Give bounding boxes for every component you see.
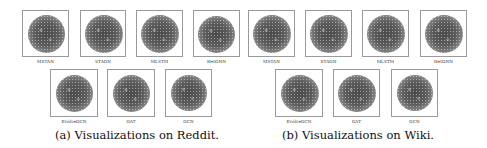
embedding-scatter-icon (113, 75, 150, 112)
panel-label: EvolveGCN (275, 119, 323, 124)
panel-label: GAT (333, 119, 380, 124)
embedding-scatter-icon (338, 75, 376, 112)
embedding-scatter-icon (141, 15, 179, 53)
embedding-scatter-icon (367, 15, 405, 53)
embedding-scatter-icon (198, 16, 235, 53)
panel-reddit-mstan (22, 10, 69, 57)
panel-label: EvolveGCN (50, 119, 98, 124)
caption-wiki: (b) Visualizations on Wiki. (282, 128, 434, 142)
panel-reddit-stagn (80, 10, 126, 57)
panel-label: MSTAN (248, 59, 295, 64)
panel-reddit-mlstm (136, 10, 183, 57)
panel-wiki-evolvegcn (275, 69, 323, 117)
embedding-scatter-icon (397, 75, 433, 111)
panel-label: MLSTM (136, 59, 183, 64)
panel-label: MSTAN (22, 59, 69, 64)
panel-label: HetGNN (420, 59, 467, 64)
panel-wiki-mlstm (362, 10, 409, 57)
embedding-scatter-icon (28, 15, 65, 53)
panel-wiki-mstan (248, 10, 295, 57)
panel-wiki-stagn (305, 10, 352, 57)
caption-reddit: (a) Visualizations on Reddit. (55, 128, 219, 142)
embedding-scatter-icon (281, 75, 319, 112)
panel-label: GCN (165, 119, 212, 124)
embedding-scatter-icon (56, 75, 93, 112)
embedding-scatter-icon (171, 75, 207, 111)
panel-wiki-hetgnn (420, 10, 467, 57)
panel-wiki-gcn (391, 69, 438, 117)
panel-reddit-hetgnn (193, 10, 240, 57)
embedding-scatter-icon (85, 15, 123, 53)
embedding-scatter-icon (425, 15, 463, 53)
embedding-scatter-icon (253, 15, 291, 53)
embedding-scatter-icon (310, 15, 348, 53)
panel-reddit-gcn (165, 69, 212, 117)
panel-label: STAGN (80, 59, 126, 64)
panel-label: MLSTM (362, 59, 409, 64)
panel-reddit-evolvegcn (50, 69, 98, 117)
panel-wiki-gat (333, 69, 380, 117)
panel-label: STAGN (305, 59, 352, 64)
panel-label: GAT (107, 119, 155, 124)
panel-label: HetGNN (193, 59, 240, 64)
panel-label: GCN (391, 119, 438, 124)
panel-reddit-gat (107, 69, 155, 117)
